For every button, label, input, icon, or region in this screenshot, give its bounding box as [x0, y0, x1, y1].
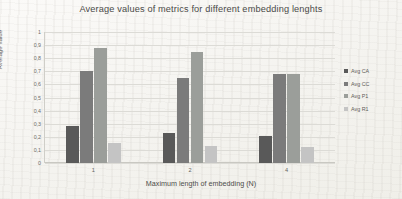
y-tick-label: 0,1: [17, 147, 41, 153]
bar: [66, 126, 79, 163]
legend: Avg CAAvg CCAvg P1Avg R1: [344, 68, 369, 112]
y-tick-label: 1: [17, 29, 41, 35]
x-tick-label: 1: [45, 167, 142, 173]
legend-swatch-icon: [344, 82, 348, 86]
y-axis-title: Average value: [0, 30, 3, 69]
legend-swatch-icon: [344, 69, 348, 73]
legend-swatch-icon: [344, 94, 348, 98]
bar: [205, 146, 218, 163]
bar-group: 1: [45, 32, 142, 163]
legend-item: Avg P1: [344, 93, 369, 99]
legend-label: Avg P1: [351, 93, 368, 99]
y-tick-label: 0,9: [17, 42, 41, 48]
bar-group: 4: [238, 32, 335, 163]
y-tick-label: 0,8: [17, 55, 41, 61]
bar: [177, 78, 190, 163]
legend-label: Avg CC: [351, 81, 369, 87]
y-tick-label: 0,2: [17, 134, 41, 140]
legend-label: Avg CA: [351, 68, 369, 74]
legend-label: Avg R1: [351, 106, 369, 112]
legend-item: Avg CC: [344, 81, 369, 87]
bar: [80, 71, 93, 163]
y-tick-label: 0,3: [17, 121, 41, 127]
bar-chart: Average values of metrics for different …: [0, 0, 402, 199]
legend-swatch-icon: [344, 107, 348, 111]
x-tick-label: 4: [238, 167, 335, 173]
y-tick-label: 0,6: [17, 81, 41, 87]
x-axis-title: Maximum length of embedding (N): [0, 179, 402, 188]
bar: [94, 48, 107, 163]
bar-group: 2: [142, 32, 239, 163]
gridline: [45, 163, 335, 164]
bar: [287, 74, 300, 163]
y-tick-label: 0: [17, 160, 41, 166]
legend-item: Avg CA: [344, 68, 369, 74]
bar: [108, 143, 121, 163]
bar-groups: 124: [45, 32, 335, 163]
y-tick-label: 0,4: [17, 108, 41, 114]
x-tick-label: 2: [142, 167, 239, 173]
y-tick-label: 0,7: [17, 68, 41, 74]
bar: [163, 133, 176, 163]
plot-area: 124: [45, 32, 335, 163]
y-tick-label: 0,5: [17, 95, 41, 101]
bar: [259, 136, 272, 164]
legend-item: Avg R1: [344, 106, 369, 112]
bar: [273, 74, 286, 163]
chart-title: Average values of metrics for different …: [0, 4, 402, 14]
bar: [191, 52, 204, 163]
bar: [301, 147, 314, 163]
